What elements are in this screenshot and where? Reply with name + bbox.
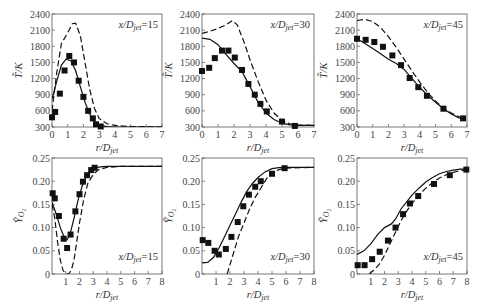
- x-tick-label: 0: [355, 129, 360, 140]
- x-tick-label: 7: [160, 129, 165, 140]
- data-marker: [377, 249, 383, 255]
- y-tick-label: 1200: [30, 73, 50, 84]
- chart-panel-top-right: 0123456730060090012001500180021002400r/D…: [317, 9, 469, 156]
- data-marker: [71, 59, 77, 65]
- data-marker: [223, 246, 229, 252]
- data-marker: [240, 203, 246, 209]
- x-tick-label: 1: [65, 129, 70, 140]
- data-marker: [76, 78, 82, 84]
- y-tick-label: 0.05: [338, 245, 356, 256]
- x-tick-label: 2: [77, 276, 82, 287]
- data-marker: [66, 53, 72, 59]
- y-tick-label: 1200: [335, 73, 355, 84]
- x-tick-label: 8: [312, 276, 317, 287]
- data-marker: [371, 39, 377, 45]
- dashed-curve: [202, 21, 314, 126]
- x-tick-label: 2: [386, 129, 391, 140]
- x-tick-label: 1: [214, 276, 219, 287]
- data-marker: [80, 179, 86, 185]
- x-tick-label: 1: [216, 129, 221, 140]
- x-tick-label: 2: [228, 276, 233, 287]
- x-tick-label: 3: [242, 276, 247, 287]
- figure-canvas: 0123456730060090012001500180021002400r/D…: [0, 0, 479, 306]
- data-marker: [235, 219, 241, 225]
- x-tick-label: 7: [312, 129, 317, 140]
- data-marker: [239, 67, 245, 73]
- x-axis-label: r/Djet: [247, 289, 270, 302]
- data-marker: [362, 262, 368, 268]
- y-tick-label: 0.10: [183, 222, 201, 233]
- x-tick-label: 5: [280, 129, 285, 140]
- data-marker: [90, 115, 96, 121]
- data-marker: [85, 108, 91, 114]
- y-tick-label: 2400: [335, 9, 355, 20]
- data-marker: [56, 213, 62, 219]
- y-tick-label: 0.10: [33, 222, 51, 233]
- x-tick-label: 1: [368, 276, 373, 287]
- y-tick-label: 2400: [180, 9, 200, 20]
- panel-annotation: x/Djet=45: [422, 19, 463, 32]
- y-tick-label: 900: [185, 89, 200, 100]
- chart-panel-top-middle: 0123456730060090012001500180021002400r/D…: [162, 9, 316, 156]
- y-tick-label: 2100: [30, 25, 50, 36]
- data-marker: [369, 256, 375, 262]
- data-marker: [57, 91, 63, 97]
- y-tick-label: 300: [340, 122, 355, 133]
- data-marker: [216, 252, 222, 258]
- y-tick-label: 0.20: [183, 176, 201, 187]
- x-tick-label: 5: [118, 276, 123, 287]
- y-tick-label: 0.25: [33, 153, 51, 164]
- x-tick-label: 4: [112, 129, 117, 140]
- y-tick-label: 900: [340, 89, 355, 100]
- dashed-curve: [357, 19, 464, 118]
- y-tick-label: 0: [195, 269, 200, 280]
- data-marker: [199, 68, 205, 74]
- data-marker: [205, 240, 211, 246]
- y-tick-label: 0: [45, 269, 50, 280]
- y-tick-label: 300: [185, 122, 200, 133]
- data-marker: [252, 184, 258, 190]
- y-axis-label: T̃/K: [317, 62, 329, 79]
- data-marker: [80, 94, 86, 100]
- y-tick-label: 600: [185, 105, 200, 116]
- data-marker: [92, 165, 98, 171]
- x-tick-label: 7: [146, 276, 151, 287]
- x-axis-label: r/Djet: [401, 142, 424, 155]
- x-axis-label: r/Djet: [96, 142, 119, 155]
- solid-curve: [52, 59, 162, 127]
- data-marker: [440, 106, 446, 112]
- chart-panel-bottom-left: 1234567800.050.100.150.200.25r/DjetỸO₂x/…: [13, 153, 165, 303]
- data-marker: [415, 84, 421, 90]
- y-tick-label: 300: [35, 122, 50, 133]
- data-marker: [52, 195, 58, 201]
- data-marker: [228, 234, 234, 240]
- data-marker: [61, 236, 67, 242]
- data-marker: [252, 92, 258, 98]
- plot-frame: [202, 14, 314, 127]
- y-tick-label: 600: [340, 105, 355, 116]
- y-axis-label: T̃/K: [162, 62, 174, 79]
- x-tick-label: 6: [284, 276, 289, 287]
- x-tick-label: 5: [128, 129, 133, 140]
- y-tick-label: 2100: [180, 25, 200, 36]
- data-marker: [292, 123, 298, 129]
- panel-annotation: x/Djet=15: [117, 19, 158, 32]
- y-tick-label: 0.25: [183, 153, 201, 164]
- x-tick-label: 7: [465, 129, 470, 140]
- y-tick-label: 1500: [335, 57, 355, 68]
- data-marker: [355, 262, 361, 268]
- x-tick-label: 3: [396, 276, 401, 287]
- x-tick-label: 8: [465, 276, 470, 287]
- solid-curve: [357, 169, 467, 254]
- data-marker: [447, 172, 453, 178]
- data-marker: [258, 178, 264, 184]
- y-tick-label: 0: [350, 269, 355, 280]
- x-tick-label: 4: [264, 129, 269, 140]
- x-tick-label: 4: [417, 129, 422, 140]
- y-tick-label: 0.15: [183, 199, 201, 210]
- data-marker: [257, 101, 263, 107]
- chart-panel-bottom-middle: 1234567800.050.100.150.200.25r/DjetỸO₂x/…: [163, 153, 317, 303]
- x-tick-label: 5: [423, 276, 428, 287]
- data-marker: [246, 192, 252, 198]
- data-marker: [50, 190, 56, 196]
